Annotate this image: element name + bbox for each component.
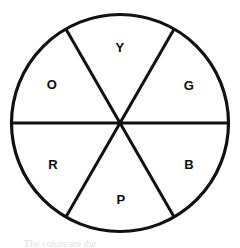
- sector-label-blue: B: [184, 157, 194, 172]
- sector-label-red: R: [48, 157, 58, 172]
- sector-label-yellow: Y: [116, 40, 125, 55]
- sector-label-purple: P: [117, 192, 126, 207]
- caption-fragment: The colors are the: [24, 239, 204, 248]
- color-wheel-figure: Y G B P R O The colors are the: [0, 0, 240, 248]
- color-wheel-diagram: Y G B P R O: [0, 0, 240, 248]
- sector-label-green: G: [184, 78, 194, 93]
- sector-label-orange: O: [47, 77, 57, 92]
